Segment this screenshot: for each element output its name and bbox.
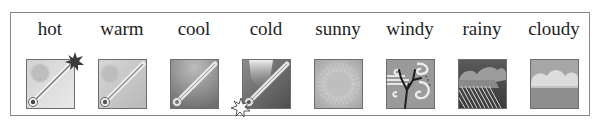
thermometer-cold-icon [242,59,291,109]
sun-icon [314,59,363,109]
weather-item-cloudy: cloudy [518,13,590,117]
weather-label: rainy [446,18,518,40]
weather-label: warm [86,18,158,40]
thermometer-cool-icon [170,59,219,109]
weather-item-rainy: rainy [446,13,518,117]
thermometer-warm-icon [98,59,147,109]
weather-label: sunny [302,18,374,40]
weather-item-hot: hot [14,13,86,117]
weather-item-warm: warm [86,13,158,117]
weather-icon-panel: hot warm [10,12,590,116]
wind-tree-icon [386,59,435,109]
cloud-icon [530,59,579,109]
weather-item-windy: windy [374,13,446,117]
thermometer-hot-icon [26,59,75,109]
weather-label: windy [374,18,446,40]
weather-label: hot [14,18,86,40]
weather-item-cool: cool [158,13,230,117]
weather-label: cloudy [518,18,590,40]
weather-label: cold [230,18,302,40]
weather-item-cold: cold [230,13,302,117]
weather-label: cool [158,18,230,40]
rain-cloud-icon [458,59,507,109]
weather-item-sunny: sunny [302,13,374,117]
